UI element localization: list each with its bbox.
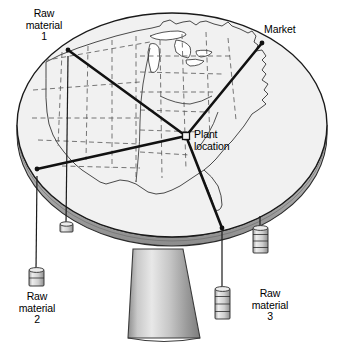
- label-raw-material-3: Raw material 3: [236, 288, 304, 323]
- string-raw-material-2: [36, 176, 37, 270]
- great-lakes-michigan: [148, 44, 160, 73]
- label-raw-material-1: Raw material 1: [8, 8, 80, 43]
- node-plant-location: [183, 133, 190, 140]
- label-market: Market: [264, 24, 324, 36]
- weight-stack-market: [253, 226, 268, 253]
- plant-location-diagram: Raw material 1 Market Plant location Raw…: [0, 0, 342, 344]
- node-market: [260, 41, 265, 46]
- node-raw-material-2: [35, 167, 40, 172]
- label-raw-material-2: Raw material 2: [2, 291, 72, 326]
- pedestal-body: [128, 249, 200, 338]
- weight-stack-raw-material-3: [215, 287, 230, 319]
- node-raw-material-3: [220, 226, 225, 231]
- label-plant-location: Plant location: [194, 129, 258, 152]
- weight-stack-raw-material-2: [29, 268, 44, 286]
- node-raw-material-1: [66, 48, 71, 53]
- weight-stack-raw-material-1: [60, 222, 73, 232]
- table-pedestal: [128, 249, 200, 342]
